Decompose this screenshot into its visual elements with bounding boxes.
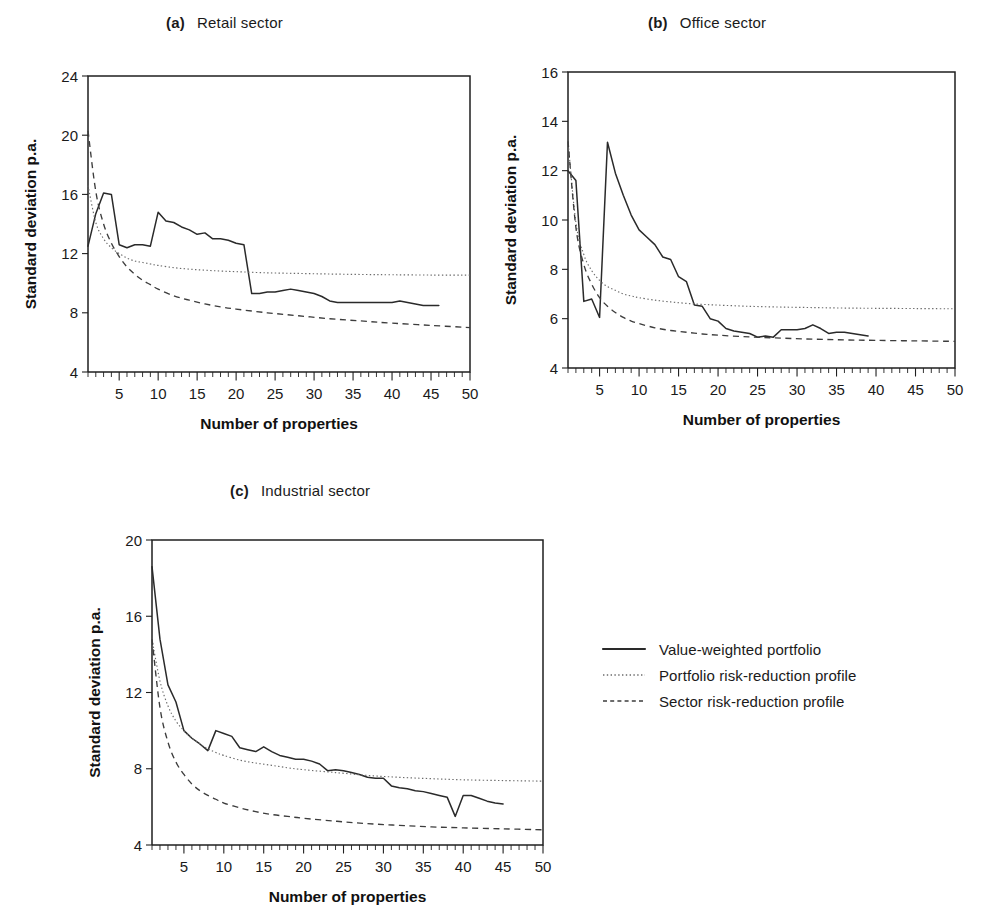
panel-c-title: (c)Industrial sector	[230, 482, 370, 499]
panel-industrial-sector: (c)Industrial sector 4812162051015202530…	[64, 470, 564, 917]
panel-a-tag: (a)	[166, 14, 185, 31]
y-tick-label: 8	[70, 304, 78, 321]
x-tick-label: 10	[631, 381, 648, 398]
legend-item-sector-profile: Sector risk-reduction profile	[602, 688, 932, 714]
y-tick-label: 12	[61, 245, 78, 262]
x-tick-label: 45	[495, 858, 512, 875]
chart-retail-sector: 48121620245101520253035404550Number of p…	[0, 0, 500, 430]
series-dotted	[152, 639, 543, 781]
series-dashed	[568, 141, 955, 341]
panel-c-tag: (c)	[230, 482, 249, 499]
chart-office-sector: 468101214165101520253035404550Number of …	[482, 0, 982, 430]
y-tick-label: 20	[125, 532, 142, 549]
plot-frame	[88, 76, 470, 372]
series-dotted	[568, 141, 955, 309]
chart-legend: Value-weighted portfolio Portfolio risk-…	[602, 636, 932, 714]
x-axis-title: Number of properties	[683, 411, 841, 428]
x-tick-label: 45	[907, 381, 924, 398]
legend-swatch-dashed-icon	[602, 695, 646, 707]
y-tick-label: 16	[125, 608, 142, 625]
panel-b-title-text: Office sector	[680, 14, 767, 31]
legend-swatch-solid-icon	[602, 643, 646, 655]
plot-area: 468101214165101520253035404550Number of …	[502, 64, 963, 429]
x-axis-title: Number of properties	[269, 888, 427, 905]
y-tick-label: 12	[541, 162, 558, 179]
y-tick-label: 16	[61, 186, 78, 203]
x-tick-label: 45	[423, 385, 440, 402]
x-tick-label: 10	[215, 858, 232, 875]
x-tick-label: 5	[180, 858, 188, 875]
x-tick-label: 20	[710, 381, 727, 398]
x-tick-label: 5	[115, 385, 123, 402]
y-tick-label: 14	[541, 113, 558, 130]
plot-area: 481216205101520253035404550Number of pro…	[86, 532, 551, 906]
x-tick-label: 35	[828, 381, 845, 398]
x-tick-label: 50	[947, 381, 964, 398]
x-tick-label: 25	[749, 381, 766, 398]
x-tick-label: 20	[295, 858, 312, 875]
x-tick-label: 20	[228, 385, 245, 402]
y-tick-label: 10	[541, 212, 558, 229]
series-solid	[88, 193, 439, 305]
x-tick-label: 50	[462, 385, 479, 402]
x-tick-label: 35	[415, 858, 432, 875]
legend-item-value-weighted: Value-weighted portfolio	[602, 636, 932, 662]
y-tick-label: 8	[550, 261, 558, 278]
y-tick-label: 24	[61, 68, 78, 85]
series-dashed	[88, 131, 470, 328]
x-tick-label: 30	[375, 858, 392, 875]
y-tick-label: 8	[134, 760, 142, 777]
x-tick-label: 35	[345, 385, 362, 402]
plot-frame	[568, 72, 955, 368]
y-tick-label: 20	[61, 127, 78, 144]
x-tick-label: 15	[189, 385, 206, 402]
x-tick-label: 40	[868, 381, 885, 398]
y-tick-label: 4	[70, 364, 78, 381]
legend-swatch-dotted-icon	[602, 669, 646, 681]
x-tick-label: 10	[150, 385, 167, 402]
chart-industrial-sector: 481216205101520253035404550Number of pro…	[64, 470, 564, 895]
x-tick-label: 50	[535, 858, 552, 875]
panel-a-title: (a)Retail sector	[166, 14, 283, 31]
x-tick-label: 25	[267, 385, 284, 402]
legend-label-value-weighted: Value-weighted portfolio	[659, 641, 821, 658]
x-tick-label: 25	[335, 858, 352, 875]
legend-label-sector-profile: Sector risk-reduction profile	[659, 693, 844, 710]
y-tick-label: 6	[550, 310, 558, 327]
y-axis-title: Standard deviation p.a.	[502, 135, 519, 306]
plot-frame	[152, 540, 543, 845]
x-tick-label: 15	[670, 381, 687, 398]
panel-b-tag: (b)	[648, 14, 668, 31]
legend-item-portfolio-profile: Portfolio risk-reduction profile	[602, 662, 932, 688]
x-axis-title: Number of properties	[200, 415, 358, 432]
panel-c-title-text: Industrial sector	[261, 482, 370, 499]
y-tick-label: 4	[134, 837, 142, 854]
panel-b-title: (b)Office sector	[648, 14, 766, 31]
x-tick-label: 30	[306, 385, 323, 402]
y-tick-label: 12	[125, 684, 142, 701]
series-solid	[152, 567, 503, 817]
y-axis-title: Standard deviation p.a.	[86, 607, 103, 778]
x-tick-label: 5	[595, 381, 603, 398]
panel-office-sector: (b)Office sector 46810121416510152025303…	[482, 0, 982, 450]
series-dotted	[88, 186, 470, 276]
y-tick-label: 4	[550, 360, 558, 377]
x-tick-label: 40	[384, 385, 401, 402]
plot-area: 48121620245101520253035404550Number of p…	[22, 68, 478, 433]
legend-label-portfolio-profile: Portfolio risk-reduction profile	[659, 667, 856, 684]
y-tick-label: 16	[541, 64, 558, 81]
y-axis-title: Standard deviation p.a.	[22, 139, 39, 310]
series-dashed	[152, 639, 543, 830]
x-tick-label: 15	[255, 858, 272, 875]
panel-a-title-text: Retail sector	[197, 14, 283, 31]
x-tick-label: 30	[789, 381, 806, 398]
panel-retail-sector: (a)Retail sector 48121620245101520253035…	[0, 0, 500, 450]
x-tick-label: 40	[455, 858, 472, 875]
